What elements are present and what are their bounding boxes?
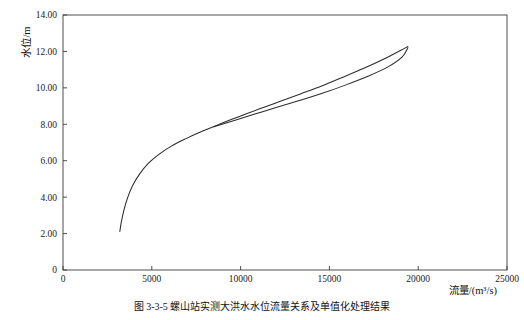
data-series-group (120, 47, 408, 232)
y-tick-label: 8.00 (40, 120, 57, 130)
x-tick-label: 20000 (406, 274, 430, 284)
plot-frame (63, 15, 507, 270)
y-tick-label: 14.00 (36, 10, 58, 20)
x-axis-ticks (63, 266, 507, 270)
x-tick-label: 0 (61, 274, 66, 284)
figure-container: 0500010000150002000025000 02.004.006.008… (0, 0, 524, 320)
data-curve-1 (120, 47, 408, 232)
y-tick-label: 10.00 (36, 83, 58, 93)
chart-canvas: 0500010000150002000025000 02.004.006.008… (0, 0, 524, 320)
x-axis-tick-labels: 0500010000150002000025000 (61, 274, 520, 284)
x-tick-label: 25000 (495, 274, 519, 284)
figure-caption: 图 3-3-5 螺山站实测大洪水水位流量关系及单值化处理结果 (0, 300, 524, 313)
x-tick-label: 10000 (229, 274, 253, 284)
x-tick-label: 15000 (318, 274, 342, 284)
y-axis-tick-labels: 02.004.006.008.0010.0012.0014.00 (36, 10, 58, 275)
y-tick-label: 2.00 (40, 229, 57, 239)
y-tick-label: 6.00 (40, 156, 57, 166)
x-axis-title: 流量/(m³/s) (449, 284, 498, 297)
y-tick-label: 4.00 (40, 193, 57, 203)
y-axis-ticks (63, 15, 67, 270)
y-tick-label: 0 (52, 265, 57, 275)
y-axis-title: 水位/m (20, 26, 32, 57)
x-tick-label: 5000 (142, 274, 161, 284)
y-tick-label: 12.00 (36, 47, 58, 57)
